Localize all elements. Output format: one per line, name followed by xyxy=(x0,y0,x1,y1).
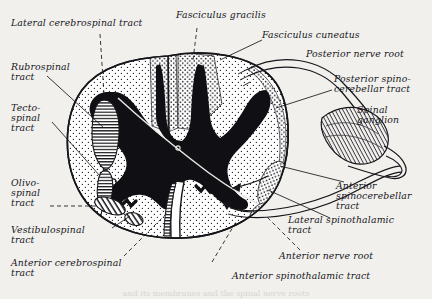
label-vestibulospinal-tract: Vestibulospinal tract xyxy=(11,225,85,245)
leader-fasciculus-cuneatus xyxy=(220,40,262,60)
label-fasciculus-gracilis: Fasciculus gracilis xyxy=(176,10,266,20)
label-olivospinal-tract: Olivo- spinal tract xyxy=(11,178,40,209)
label-lateral-spinothalamic-tract: Lateral spinothalamic tract xyxy=(288,215,394,235)
label-anterior-cerebrospinal-tract: Anterior cerebrospinal tract xyxy=(11,258,122,278)
label-anterior-nerve-root: Anterior nerve root xyxy=(279,251,373,261)
label-rubrospinal-tract: Rubrospinal tract xyxy=(11,62,70,82)
label-posterior-spinocerebellar-tract: Posterior spino- cerebellar tract xyxy=(334,74,411,94)
label-anterior-spinocerebellar-tract: Anterior spinocerebellar tract xyxy=(336,181,412,212)
posterior-median-septum xyxy=(168,52,169,133)
leader-anterior-spinocerebellar xyxy=(280,166,344,182)
label-lateral-cerebrospinal-tract: Lateral cerebrospinal tract xyxy=(11,18,142,28)
central-canal-dot xyxy=(171,128,174,131)
label-tectospinal-tract: Tecto- spinal tract xyxy=(11,103,41,134)
label-posterior-nerve-root: Posterior nerve root xyxy=(306,49,404,59)
figure-caption: and its membranes and the spinal nerve r… xyxy=(0,289,432,299)
label-spinal-ganglion: Spinal ganglion xyxy=(357,105,399,125)
label-anterior-spinothalamic-tract: Anterior spinothalamic tract xyxy=(232,271,370,281)
label-fasciculus-cuneatus: Fasciculus cuneatus xyxy=(262,30,360,40)
